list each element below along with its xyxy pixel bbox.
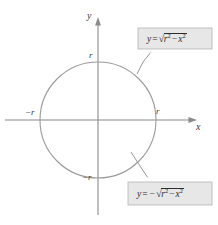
- lower-eq-sign: −: [149, 189, 156, 199]
- lower-callout-tail: [142, 177, 154, 182]
- lower-callout-leader-line: [131, 152, 148, 178]
- lower-callout-equation: y=−√r2−x2: [137, 189, 184, 200]
- upper-callout-leader-line: [137, 52, 151, 74]
- circle-semicircle-figure: y x r −r −r r y=√r2−x2 y=−√r2−x2: [0, 0, 218, 225]
- tick-label-bottom-negative-r: −r: [82, 173, 92, 182]
- lower-eq-minus: −: [168, 189, 175, 199]
- tick-label-right-r: r: [156, 107, 160, 116]
- lower-eq-radicand: r2−x2: [161, 188, 184, 199]
- y-axis-arrowhead-icon: [95, 17, 101, 26]
- y-axis-label: y: [87, 11, 91, 21]
- x-axis-label: x: [196, 122, 200, 132]
- lower-eq-exp2: 2: [180, 187, 183, 194]
- upper-eq-exp2: 2: [182, 32, 185, 39]
- upper-eq-radicand: r2−x2: [164, 33, 187, 44]
- tick-label-top-r: r: [89, 51, 93, 60]
- tick-label-left-negative-r: −r: [25, 108, 35, 117]
- upper-eq-equals: =: [151, 34, 158, 44]
- lower-eq-equals: =: [141, 189, 148, 199]
- upper-callout-equation: y=√r2−x2: [147, 34, 187, 45]
